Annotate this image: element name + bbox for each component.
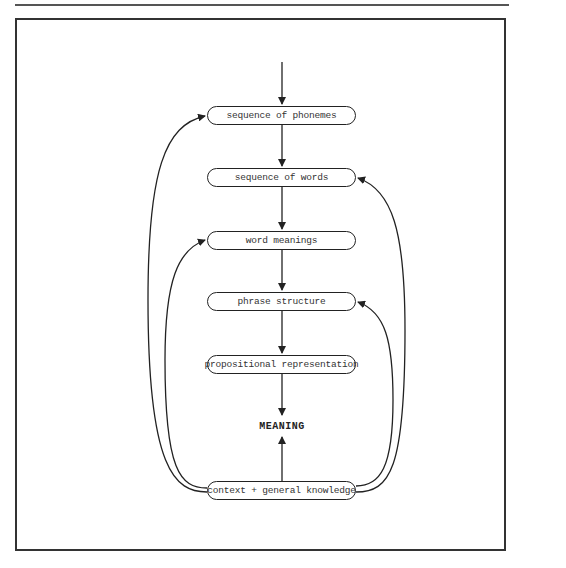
arrow-context-words	[356, 178, 405, 492]
arrow-context-meanings	[165, 240, 207, 488]
node-phrase-structure: phrase structure	[207, 292, 356, 311]
node-sequence-of-phonemes: sequence of phonemes	[207, 106, 356, 125]
node-sequence-of-words: sequence of words	[207, 168, 356, 187]
meaning-output-label: MEANING	[232, 421, 332, 432]
node-word-meanings: word meanings	[207, 231, 356, 250]
arrow-context-phonemes	[148, 116, 207, 492]
arrow-context-phrase	[356, 302, 393, 486]
node-context-general-knowledge: context + general knowledge	[207, 481, 356, 500]
node-propositional-representation: propositional representation	[207, 355, 356, 374]
